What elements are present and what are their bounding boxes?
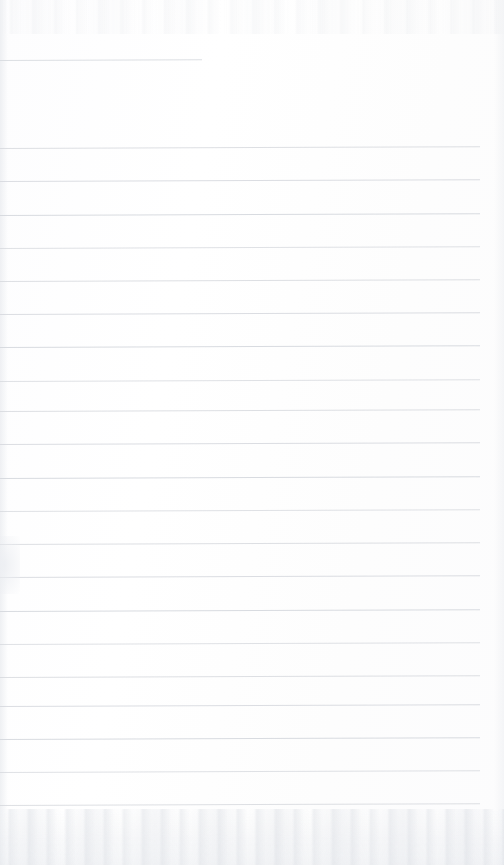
scanned-page — [0, 0, 504, 865]
ruled-line — [0, 575, 480, 578]
ruled-line — [0, 146, 480, 149]
ruled-line — [0, 379, 480, 382]
ruled-line — [0, 213, 480, 216]
ruled-line — [0, 675, 480, 678]
top-scan-noise-band — [0, 0, 504, 34]
ruled-line — [0, 279, 480, 282]
ruled-line — [0, 803, 480, 806]
left-edge-scan-shadow — [0, 0, 8, 865]
ruled-line — [0, 442, 480, 445]
ruled-line — [0, 737, 480, 740]
ruled-line — [0, 509, 480, 512]
ruled-line — [0, 476, 480, 479]
ruled-line — [0, 542, 480, 545]
paper-background — [0, 0, 504, 865]
ruled-line — [0, 246, 480, 249]
partial-top-rule — [0, 59, 202, 61]
ruled-line — [0, 312, 480, 315]
ruled-line — [0, 704, 480, 707]
ruled-line — [0, 345, 480, 348]
ruled-line — [0, 609, 480, 612]
right-edge-scan-shadow — [494, 0, 504, 865]
ruled-line — [0, 409, 480, 412]
ruled-line — [0, 179, 480, 182]
bottom-scan-noise-band — [0, 809, 504, 865]
ruled-line — [0, 770, 480, 773]
ruled-line — [0, 642, 480, 645]
